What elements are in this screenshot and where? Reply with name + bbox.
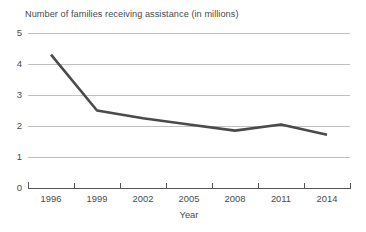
- x-axis-tick-labels: 1996 1999 2002 2005 2008 2011 2014: [41, 193, 338, 204]
- ytick-label-1: 1: [17, 151, 22, 162]
- ytick-label-3: 3: [17, 89, 22, 100]
- xtick-label-1996: 1996: [41, 193, 62, 204]
- ytick-label-5: 5: [17, 27, 22, 38]
- xtick-label-2011: 2011: [271, 193, 291, 204]
- xtick-label-1999: 1999: [87, 193, 108, 204]
- xtick-label-2008: 2008: [225, 193, 246, 204]
- ytick-label-2: 2: [17, 120, 22, 131]
- ytick-label-4: 4: [17, 58, 23, 69]
- xtick-label-2014: 2014: [317, 193, 338, 204]
- x-axis-title: Year: [180, 209, 199, 220]
- gridlines: [28, 33, 350, 157]
- xtick-label-2002: 2002: [133, 193, 154, 204]
- chart-plot-area: 5 4 3 2 1 0 1996 1999 2002 2005 2008 201…: [0, 0, 366, 232]
- line-chart-figure: Number of families receiving assistance …: [0, 0, 366, 232]
- y-axis-tick-labels: 5 4 3 2 1 0: [17, 27, 23, 193]
- xtick-label-2005: 2005: [179, 193, 200, 204]
- x-axis-tickmarks: [29, 183, 351, 189]
- ytick-label-0: 0: [17, 182, 22, 193]
